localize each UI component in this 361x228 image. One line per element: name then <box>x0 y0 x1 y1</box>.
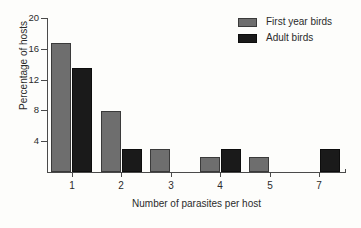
x-axis-tick-label: 7 <box>304 181 334 191</box>
chart-legend: First year birdsAdult birds <box>238 14 332 46</box>
x-axis-end-cap <box>345 169 346 173</box>
bar-adult-birds-2 <box>122 149 142 172</box>
bar-adult-birds-4 <box>221 149 241 172</box>
legend-item-label: First year birds <box>266 17 332 27</box>
legend-swatch-icon <box>238 34 257 43</box>
legend-item-first-year-birds: First year birds <box>238 14 332 30</box>
legend-item-adult-birds: Adult birds <box>238 30 332 46</box>
bar-first-year-birds-1 <box>51 43 71 172</box>
bar-first-year-birds-3 <box>150 149 170 172</box>
x-axis-tick-label: 2 <box>106 181 136 191</box>
x-axis-tick <box>121 173 122 177</box>
bar-first-year-birds-2 <box>101 111 121 172</box>
bar-adult-birds-1 <box>72 68 92 172</box>
bar-first-year-birds-4 <box>200 157 220 172</box>
y-axis-tick-label: 4 <box>0 136 39 146</box>
y-axis-title: Percentage of hosts <box>18 0 29 136</box>
x-axis-title: Number of parasites per host <box>47 198 346 209</box>
legend-swatch-icon <box>238 18 257 27</box>
x-axis-tick-label: 1 <box>57 181 87 191</box>
x-axis-tick-label: 4 <box>205 181 235 191</box>
x-axis-tick <box>171 173 172 177</box>
x-axis-tick-label: 3 <box>156 181 186 191</box>
x-axis-line <box>47 172 346 173</box>
bar-chart-figure: 48121620 123457 Percentage of hosts Numb… <box>0 0 361 228</box>
x-axis-tick <box>319 173 320 177</box>
bar-first-year-birds-5 <box>249 157 269 172</box>
legend-item-label: Adult birds <box>266 33 313 43</box>
x-axis-tick <box>72 173 73 177</box>
x-axis-tick-label: 5 <box>255 181 285 191</box>
bar-adult-birds-7 <box>320 149 340 172</box>
x-axis-tick <box>220 173 221 177</box>
x-axis-tick <box>270 173 271 177</box>
